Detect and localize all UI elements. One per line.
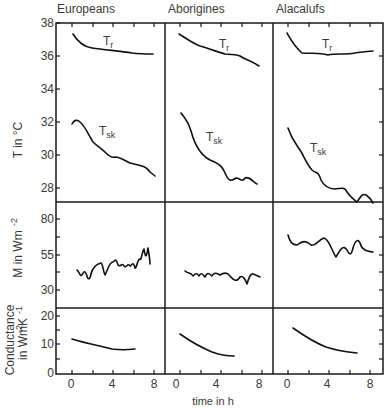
y-tick-20: 20: [41, 309, 55, 323]
x-tick-labels: 0 4 8 0 4 8 0 4 8: [68, 377, 374, 391]
curve-aborigines-m: [185, 271, 260, 284]
label-tsk-europeans: Tsk: [99, 124, 116, 140]
y-tick-36: 36: [41, 49, 55, 63]
x-tick-8: 8: [151, 377, 158, 391]
x-tick-0: 0: [68, 377, 75, 391]
x-tick-4: 4: [213, 377, 220, 391]
x-tick-8: 8: [256, 377, 263, 391]
axis-ticks: [56, 23, 383, 374]
y-axis-label-conductance: Conductance in Wm -2 K -1: [3, 304, 30, 375]
label-tr-europeans: Tr: [103, 34, 113, 50]
curve-europeans-conductance: [72, 339, 135, 350]
y-tick-30: 30: [41, 148, 55, 162]
y-tick-10: 10: [41, 337, 55, 351]
y-tick-0: 0: [47, 366, 54, 380]
y-axis-label-metabolism: M in Wm -2: [9, 218, 25, 278]
curve-europeans-m: [77, 248, 150, 279]
x-tick-4: 4: [109, 377, 116, 391]
x-tick-0: 0: [173, 377, 180, 391]
y-axis-label-temperature: T in °C: [11, 121, 25, 158]
y-tick-m30: 30: [41, 283, 55, 297]
label-tr-alacalufs: Tr: [322, 37, 332, 53]
curve-alacalufs-tsk: [288, 128, 373, 203]
figure: Europeans Aborigines Alacalufs 38 36: [0, 0, 390, 412]
x-axis-label: time in h: [192, 395, 234, 407]
y-axis-label-cond-k: K: [16, 318, 30, 326]
x-tick-4: 4: [324, 377, 331, 391]
curve-alacalufs-m: [288, 235, 373, 257]
y-tick-55: 55: [41, 248, 55, 262]
curve-aborigines-conductance: [180, 334, 234, 356]
y-axis-label-cond-sup2: -1: [14, 306, 24, 314]
plot-frame: [56, 23, 383, 374]
y-tick-28: 28: [41, 181, 55, 195]
label-tsk-aborigines: Tsk: [206, 130, 223, 146]
x-tick-8: 8: [367, 377, 374, 391]
curve-alacalufs-conductance: [293, 328, 357, 353]
curve-aborigines-tsk: [181, 113, 257, 184]
column-title-alacalufs: Alacalufs: [276, 2, 325, 16]
label-tr-aborigines: Tr: [219, 37, 229, 53]
y-tick-32: 32: [41, 115, 55, 129]
y-tick-34: 34: [41, 82, 55, 96]
x-tick-0: 0: [284, 377, 291, 391]
y-tick-labels: 38 36 34 32 30 28 80 55 30 20 10 0: [41, 16, 55, 380]
y-tick-38: 38: [41, 16, 55, 30]
column-title-aborigines: Aborigines: [168, 2, 225, 16]
y-axis-label-m-sup: -2: [9, 218, 19, 226]
y-tick-80: 80: [41, 212, 55, 226]
label-tsk-alacalufs: Tsk: [310, 141, 327, 157]
y-axis-label-m-main: M in Wm: [11, 230, 25, 277]
curve-europeans-tsk: [72, 120, 155, 176]
column-title-europeans: Europeans: [57, 2, 115, 16]
